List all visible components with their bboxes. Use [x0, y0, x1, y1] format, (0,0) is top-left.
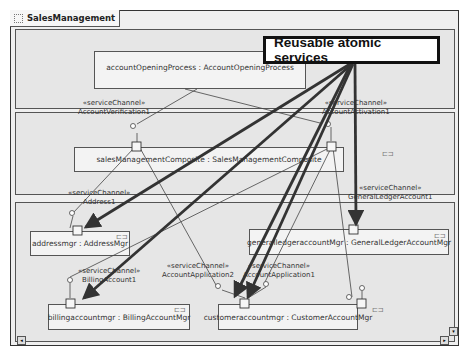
channel-label-address: «serviceChannel»Address1	[68, 189, 130, 207]
channel-label-general-ledger-account: «serviceChannel»GeneralLedgerAccount1	[348, 184, 432, 202]
channel-label-account-activation: «serviceChannel»AccountActivation1	[322, 99, 390, 117]
scroll-down-button[interactable]: ▾	[449, 327, 458, 336]
callout-reusable-services: Reusable atomic services	[263, 36, 440, 64]
channel-label-account-verification: «serviceChannel»AccountVerification1	[78, 99, 150, 117]
scroll-left-button[interactable]: ◂	[17, 336, 26, 345]
channel-label-account-application-2: «serviceChannel»AccountApplication2	[162, 262, 234, 280]
channel-label-account-application-1: «serviceChannel»AccountApplication1	[243, 262, 315, 280]
channel-label-billing-account: «serviceChannel»BillingAccount1	[78, 267, 140, 285]
scroll-right-button[interactable]: ▸	[440, 336, 449, 345]
